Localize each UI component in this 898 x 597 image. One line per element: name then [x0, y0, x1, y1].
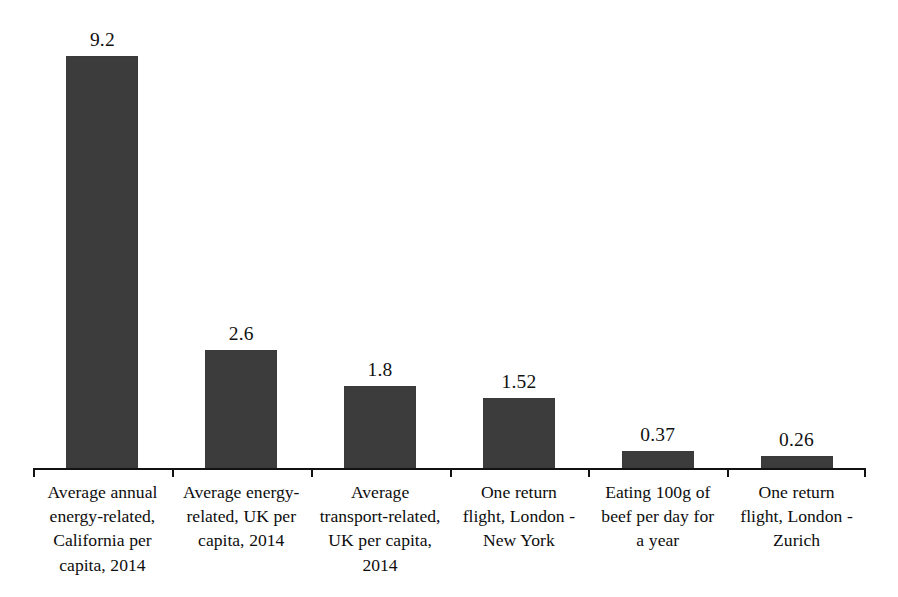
bar-5[interactable]: [761, 456, 833, 468]
category-label-2-line-0: Average: [313, 480, 448, 504]
category-label-4-line-0: Eating 100g of: [590, 480, 725, 504]
axis-tick-5: [727, 468, 729, 477]
axis-tick-4: [588, 468, 590, 477]
axis-tick-1: [172, 468, 174, 477]
bar-slot-0: 9.2: [33, 20, 172, 468]
category-label-0: Average annual energy-related, Californi…: [33, 480, 172, 577]
category-label-1-line-2: capita, 2014: [174, 528, 309, 552]
category-label-group: Average annual energy-related, Californi…: [33, 480, 866, 592]
category-label-1-line-0: Average energy-: [174, 480, 309, 504]
bar-value-label-3: 1.52: [501, 372, 536, 392]
category-label-3-line-0: One return: [452, 480, 587, 504]
category-label-5: One return flight, London - Zurich: [727, 480, 866, 553]
category-label-1: Average energy- related, UK per capita, …: [172, 480, 311, 553]
category-label-0-line-0: Average annual: [35, 480, 170, 504]
category-label-3-line-1: flight, London -: [452, 504, 587, 528]
bar-value-label-1: 2.6: [229, 324, 254, 344]
bar-3[interactable]: [483, 398, 555, 468]
category-label-1-line-1: related, UK per: [174, 504, 309, 528]
axis-tick-start: [33, 468, 35, 477]
bar-value-label-5: 0.26: [779, 430, 814, 450]
bar-value-label-4: 0.37: [640, 425, 675, 445]
category-label-2-line-1: transport-related,: [313, 504, 448, 528]
bar-2[interactable]: [344, 386, 416, 468]
bar-value-label-2: 1.8: [368, 360, 393, 380]
category-label-3-line-2: New York: [452, 528, 587, 552]
category-label-2-line-2: UK per capita,: [313, 528, 448, 552]
category-label-4: Eating 100g of beef per day for a year: [588, 480, 727, 553]
category-label-4-line-1: beef per day for: [590, 504, 725, 528]
axis-tick-3: [450, 468, 452, 477]
plot-area: 9.2 2.6 1.8 1.52 0.37 0.26: [33, 20, 866, 468]
category-label-0-line-1: energy-related,: [35, 504, 170, 528]
category-label-3: One return flight, London - New York: [450, 480, 589, 553]
axis-tick-end: [864, 468, 866, 477]
bar-slot-1: 2.6: [172, 20, 311, 468]
category-label-5-line-0: One return: [729, 480, 864, 504]
category-label-5-line-2: Zurich: [729, 528, 864, 552]
bar-slot-2: 1.8: [311, 20, 450, 468]
category-label-2: Average transport-related, UK per capita…: [311, 480, 450, 577]
category-label-2-line-3: 2014: [313, 553, 448, 577]
bar-4[interactable]: [622, 451, 694, 468]
bar-chart: 9.2 2.6 1.8 1.52 0.37 0.26: [0, 0, 898, 597]
bar-value-label-0: 9.2: [90, 30, 115, 50]
bar-slot-5: 0.26: [727, 20, 866, 468]
category-label-5-line-1: flight, London -: [729, 504, 864, 528]
bar-0[interactable]: [66, 56, 138, 468]
bar-slot-4: 0.37: [588, 20, 727, 468]
axis-tick-2: [311, 468, 313, 477]
bar-slot-3: 1.52: [450, 20, 589, 468]
category-label-0-line-3: capita, 2014: [35, 553, 170, 577]
bar-1[interactable]: [205, 350, 277, 468]
category-label-0-line-2: California per: [35, 528, 170, 552]
category-label-4-line-2: a year: [590, 528, 725, 552]
